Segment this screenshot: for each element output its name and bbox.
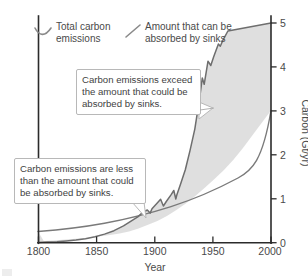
x-tick-label-0: 1800 <box>27 245 51 257</box>
x-tick-label-2: 1900 <box>143 245 167 257</box>
y-tick-label-5: 5 <box>280 17 286 29</box>
legend-line-icon <box>126 25 140 37</box>
legend-label-0-line-1: emissions <box>56 33 100 44</box>
legend-label-1-line-0: Amount that can be <box>145 21 232 32</box>
chart-legend: Total carbon emissions Amount that can b… <box>35 21 232 44</box>
legend-label-1-line-1: absorbed by sinks <box>145 33 226 44</box>
annotation-above-sinks-line-2: absorbed by sinks. <box>82 98 162 109</box>
chart-figure: 1800 1850 1900 1950 2000 Year 0 1 2 3 4 … <box>0 0 308 280</box>
x-axis-title: Year <box>144 261 166 273</box>
carbon-emissions-chart: 1800 1850 1900 1950 2000 Year 0 1 2 3 4 … <box>0 0 308 280</box>
annotation-below-sinks-line-2: be absorbed by sinks. <box>20 187 113 198</box>
legend-label-0-line-0: Total carbon <box>56 21 110 32</box>
y-tick-label-0: 0 <box>280 237 286 249</box>
legend-curve-icon <box>35 28 51 34</box>
annotation-below-sinks-line-0: Carbon emissions are less <box>20 163 133 174</box>
y-axis-title: Carbon (Gt/yr) <box>300 99 308 166</box>
annotation-above-sinks-line-1: the amount that could be <box>82 86 188 97</box>
corner-artifact <box>2 269 12 276</box>
y-tick-label-3: 3 <box>280 105 286 117</box>
x-tick-label-3: 1950 <box>201 245 225 257</box>
legend-item-total-carbon-emissions: Total carbon emissions <box>35 21 110 44</box>
band-area <box>38 23 271 243</box>
annotation-below-sinks-line-1: than the amount that could <box>20 175 134 186</box>
y-axis-ticks <box>271 23 277 243</box>
annotation-above-sinks: Carbon emissions exceed the amount that … <box>77 70 215 120</box>
y-tick-label-2: 2 <box>280 149 286 161</box>
annotation-above-sinks-line-0: Carbon emissions exceed <box>82 74 192 85</box>
y-tick-label-4: 4 <box>280 61 286 73</box>
legend-item-absorbed-by-sinks: Amount that can be absorbed by sinks <box>126 21 232 44</box>
y-axis-tick-labels: 0 1 2 3 4 5 <box>280 17 286 249</box>
x-tick-label-1: 1850 <box>85 245 109 257</box>
annotation-below-sinks: Carbon emissions are less than the amoun… <box>15 159 147 219</box>
x-axis-tick-labels: 1800 1850 1900 1950 2000 <box>27 245 282 257</box>
difference-band <box>38 23 271 243</box>
y-tick-label-1: 1 <box>280 193 286 205</box>
x-tick-label-4: 2000 <box>258 245 282 257</box>
